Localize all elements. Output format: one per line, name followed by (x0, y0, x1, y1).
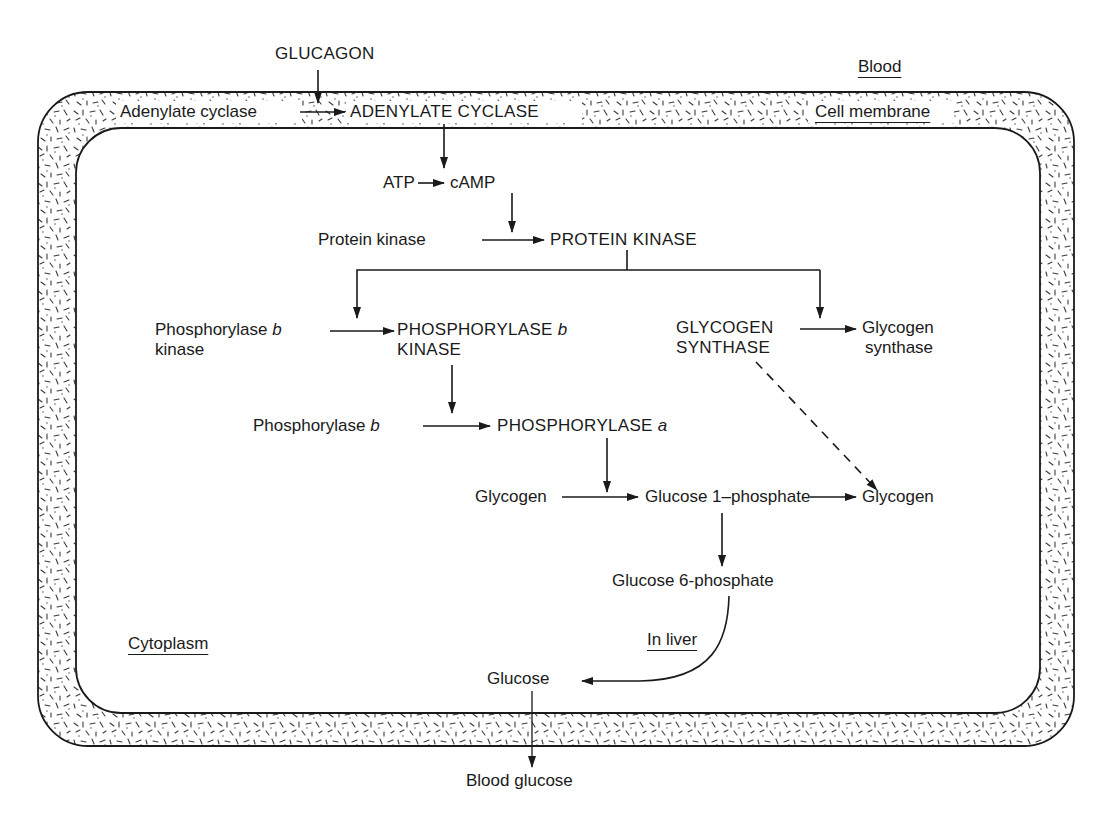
label-glycogen-product: Glycogen (862, 487, 934, 507)
text-synthase: synthase (862, 338, 934, 358)
label-adenylate-cyclase-active: ADENYLATE CYCLASE (350, 102, 539, 122)
text-kinase-caps: KINASE (397, 340, 568, 360)
text-b-italic: b (272, 320, 281, 339)
label-blood-region: Blood (858, 57, 901, 77)
text-phosphorylase-caps-prefix: PHOSPHORYLASE (397, 320, 558, 339)
text-glycogen-caps: GLYCOGEN (676, 318, 774, 338)
label-in-liver: In liver (647, 630, 697, 650)
label-phosphorylase-b: Phosphorylase b (253, 416, 380, 436)
text-phosphorylase-caps-prefix: PHOSPHORYLASE (497, 416, 658, 435)
label-glucagon: GLUCAGON (275, 44, 375, 64)
label-phosphorylase-b-kinase-inactive: Phosphorylase b kinase (155, 320, 282, 360)
pathway-diagram (0, 0, 1111, 827)
label-protein-kinase-active: PROTEIN KINASE (550, 230, 697, 250)
label-camp: cAMP (450, 173, 495, 193)
label-atp: ATP (383, 173, 415, 193)
text-a-italic: a (658, 416, 668, 435)
label-glycogen-substrate: Glycogen (475, 487, 547, 507)
text-b-italic: b (558, 320, 568, 339)
label-glycogen-synthase-inactive: Glycogen synthase (862, 318, 934, 358)
label-glucose-1-phosphate: Glucose 1–phosphate (645, 487, 810, 507)
label-cell-membrane: Cell membrane (815, 102, 930, 122)
text-phosphorylase-prefix: Phosphorylase (253, 416, 370, 435)
label-phosphorylase-a: PHOSPHORYLASE a (497, 416, 668, 436)
label-phosphorylase-b-kinase-active: PHOSPHORYLASE b KINASE (397, 320, 568, 360)
label-glucose: Glucose (487, 669, 549, 689)
label-glucose-6-phosphate: Glucose 6-phosphate (612, 571, 774, 591)
label-protein-kinase-inactive: Protein kinase (318, 230, 426, 250)
label-adenylate-cyclase-inactive: Adenylate cyclase (120, 102, 257, 122)
text-glycogen: Glycogen (862, 318, 934, 338)
text-b-italic: b (370, 416, 379, 435)
label-glycogen-synthase-active: GLYCOGEN SYNTHASE (676, 318, 774, 358)
label-cytoplasm: Cytoplasm (128, 634, 208, 654)
label-blood-glucose: Blood glucose (466, 771, 573, 791)
text-kinase: kinase (155, 340, 282, 360)
text-synthase-caps: SYNTHASE (676, 338, 774, 358)
text-phosphorylase-prefix: Phosphorylase (155, 320, 272, 339)
